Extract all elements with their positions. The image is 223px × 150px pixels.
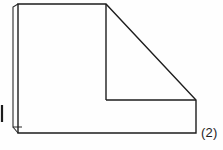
figure-number-label: (2): [201, 125, 218, 140]
sliver-bottom-join-edge: [13, 127, 18, 133]
solid-outer-outline: [18, 4, 196, 133]
figure-canvas: (2): [0, 0, 223, 150]
line-drawing-svg: [0, 0, 223, 150]
